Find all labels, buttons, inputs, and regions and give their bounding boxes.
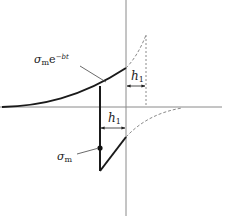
decay-diagram: h1 σme−bt h1 σm	[0, 0, 226, 221]
h1-lower-label: h1	[108, 111, 121, 126]
decay-envelope-label: σme−bt	[34, 53, 69, 67]
decay-label-leader	[80, 66, 106, 82]
sigma-m-point	[97, 145, 102, 150]
lower-continuation-dashed	[126, 108, 182, 137]
sigma-m-label: σm	[57, 150, 73, 164]
exponential-envelope-curve	[2, 68, 126, 107]
envelope-continuation-dashed	[126, 35, 146, 68]
h1-upper-label: h1	[131, 69, 144, 84]
sigma-m-leader	[77, 149, 97, 155]
diagonal-return-line	[100, 137, 126, 171]
